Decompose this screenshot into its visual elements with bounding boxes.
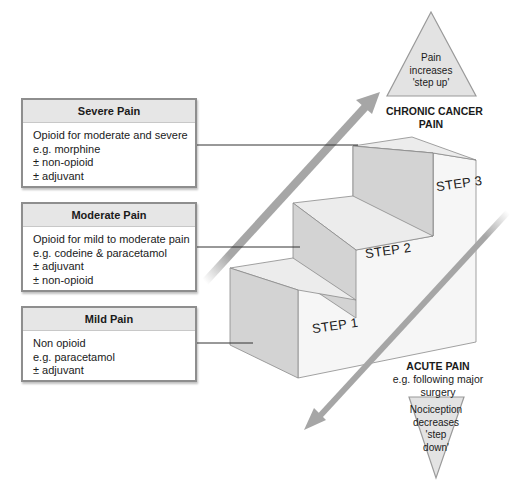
moderate-pain-line: ± adjuvant: [33, 260, 185, 274]
mild-pain-line: Non opioid: [33, 337, 185, 351]
moderate-pain-line: Opioid for mild to moderate pain: [33, 233, 185, 247]
staircase: [230, 137, 476, 378]
moderate-pain-line: ± non-opioid: [33, 274, 185, 288]
mild-pain-line: e.g. paracetamol: [33, 351, 185, 365]
severe-pain-line: Opioid for moderate and severe: [33, 129, 185, 143]
chronic-cancer-pain-label: CHRONIC CANCER PAIN: [386, 105, 476, 131]
mild-pain-line: ± adjuvant: [33, 364, 185, 378]
acute-pain-label: ACUTE PAIN e.g. following major surgery: [388, 360, 488, 399]
moderate-pain-line: e.g. codeine & paracetamol: [33, 247, 185, 261]
mild-pain-title: Mild Pain: [23, 308, 195, 331]
mild-pain-box: Mild Pain Non opioid e.g. paracetamol ± …: [21, 306, 197, 382]
severe-pain-title: Severe Pain: [23, 100, 195, 123]
severe-pain-box: Severe Pain Opioid for moderate and seve…: [21, 98, 197, 188]
severe-pain-line: ± adjuvant: [33, 170, 185, 184]
moderate-pain-box: Moderate Pain Opioid for mild to moderat…: [21, 202, 197, 292]
severe-pain-line: e.g. morphine: [33, 143, 185, 157]
step-down-text: Nociception decreases 'step down': [404, 404, 468, 454]
severe-pain-line: ± non-opioid: [33, 156, 185, 170]
step-up-text: Pain increases 'step up': [401, 52, 461, 90]
moderate-pain-title: Moderate Pain: [23, 204, 195, 227]
